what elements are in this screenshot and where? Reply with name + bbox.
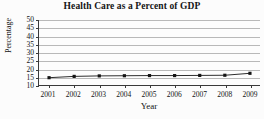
y-tick-label: 10 [14,82,34,90]
data-point-marker [73,75,76,78]
x-tick-mark [150,85,151,88]
data-point-marker [223,74,226,77]
x-tick-label: 2007 [192,91,207,99]
y-tick-label: 35 [14,41,34,49]
x-tick-mark [74,85,75,88]
y-tick-label: 45 [14,24,34,32]
x-tick-label: 2009 [242,91,257,99]
y-tick-mark [36,86,39,87]
x-tick-mark [100,85,101,88]
x-tick-mark [251,85,252,88]
data-point-marker [47,76,50,79]
data-point-marker [173,74,176,77]
data-point-marker [198,74,201,77]
x-axis-title: Year [38,101,260,111]
data-point-marker [98,74,101,77]
x-tick-mark [200,85,201,88]
y-tick-label: 50 [14,16,34,24]
y-axis-title: Percentage [4,7,13,65]
x-tick-label: 2005 [142,91,157,99]
x-tick-mark [226,85,227,88]
chart-title: Health Care as a Percent of GDP [0,1,264,11]
y-tick-label: 25 [14,57,34,65]
y-tick-label: 15 [14,74,34,82]
data-point-marker [123,74,126,77]
x-tick-label: 2003 [91,91,106,99]
plot-area [38,20,260,86]
x-tick-mark [175,85,176,88]
x-tick-mark [125,85,126,88]
x-tick-label: 2006 [167,91,182,99]
x-axis-tick-labels: 200120022003200420052006200720082009 [38,89,260,100]
data-point-marker [148,74,151,77]
data-point-marker [248,72,251,75]
x-tick-label: 2002 [66,91,81,99]
x-tick-label: 2004 [116,91,131,99]
x-tick-label: 2008 [217,91,232,99]
y-tick-label: 40 [14,33,34,41]
y-tick-label: 20 [14,66,34,74]
y-tick-label: 30 [14,49,34,57]
chart-figure: Health Care as a Percent of GDP 10152025… [0,0,264,119]
x-tick-label: 2001 [41,91,56,99]
x-tick-mark [49,85,50,88]
data-series-line [39,20,260,85]
